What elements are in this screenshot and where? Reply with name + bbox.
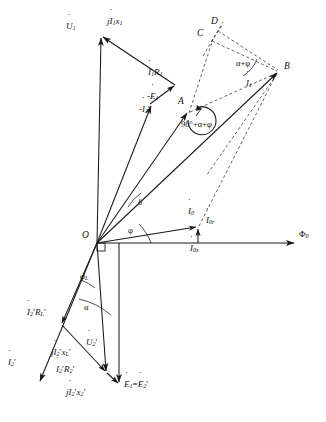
label-minus-I2prime: -I2′ bbox=[139, 105, 150, 115]
label-U1: U1 bbox=[66, 22, 76, 32]
label-jI2x2: jI2′x2′ bbox=[66, 388, 86, 398]
label-phi0-axis: Φ0 bbox=[299, 230, 309, 240]
phasor-diagram-figure: U1 jI1x1 I1R1 -E1 -I2′ A B C D O α+φ 90°… bbox=[0, 0, 326, 422]
label-I0x: I0x bbox=[190, 244, 199, 254]
label-I2RL: I2′RL′ bbox=[27, 308, 46, 318]
vector-U1 bbox=[97, 38, 101, 243]
vector-jI1x1 bbox=[103, 37, 175, 85]
point-label-O: O bbox=[82, 231, 89, 241]
vector-minus-E1 bbox=[97, 106, 151, 243]
dashed-A-C bbox=[189, 39, 213, 113]
arc-90-arrowhead bbox=[196, 105, 202, 111]
point-label-A: A bbox=[178, 97, 184, 107]
angle-arrowheads bbox=[196, 105, 202, 111]
angle-label-phi: φ bbox=[128, 226, 133, 235]
label-I0r: I0r bbox=[206, 216, 215, 226]
label-U2prime: U2′ bbox=[86, 338, 98, 348]
label-I1-vector: I1 bbox=[246, 79, 252, 89]
point-label-B: B bbox=[284, 62, 290, 72]
label-jI2xL: jI2′xL′ bbox=[51, 348, 71, 358]
label-I0: I0 bbox=[188, 207, 194, 217]
angle-label-90-plus-alpha-plus-phi: 90°+α+φ bbox=[181, 120, 212, 129]
dashed-O-to-B bbox=[199, 73, 277, 226]
vector-I2RL bbox=[62, 243, 97, 323]
label-I1R1: I1R1 bbox=[148, 68, 163, 78]
angle-label-phiL: φL bbox=[80, 272, 88, 282]
vector-minus-I2prime bbox=[97, 113, 187, 243]
point-label-C: C bbox=[197, 29, 203, 39]
label-minus-E1: -E1 bbox=[147, 92, 159, 102]
label-I2R2: I2′R2′ bbox=[56, 365, 75, 375]
label-I2prime: I2′ bbox=[8, 358, 16, 368]
diagram-canvas bbox=[0, 0, 326, 422]
point-label-D: D bbox=[211, 17, 218, 27]
origin-right-angle-marker bbox=[97, 243, 105, 251]
vector-I1 bbox=[97, 73, 277, 243]
vector-U2prime bbox=[97, 243, 106, 371]
label-jI1x1: jI1x1 bbox=[107, 17, 123, 27]
angle-label-alpha-plus-phi: α+φ bbox=[236, 59, 250, 68]
arc-phi bbox=[139, 224, 151, 243]
label-E1-equals-E2prime: E1=E2′ bbox=[124, 380, 148, 390]
angle-label-alpha: α bbox=[84, 303, 88, 312]
primary-phasors bbox=[40, 37, 294, 383]
angle-arcs bbox=[79, 59, 257, 315]
angle-label-delta: δ bbox=[138, 198, 142, 207]
vector-I2R2 bbox=[107, 373, 118, 383]
